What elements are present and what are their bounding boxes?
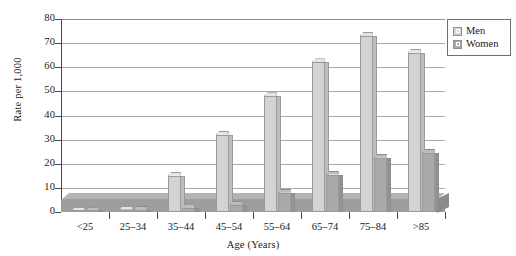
x-category-label-55–64: 55–64 <box>253 221 301 232</box>
y-tick-label: 80 <box>29 13 55 24</box>
x-tick-mark <box>157 212 158 219</box>
bar-women-65–74 <box>326 175 339 212</box>
x-category-label-75–84: 75–84 <box>349 221 397 232</box>
bar-front-face <box>230 205 243 212</box>
bar-women-35–44 <box>182 208 195 212</box>
legend-swatch-men-icon <box>453 27 462 36</box>
y-tick-label: 30 <box>29 134 55 145</box>
y-tick-label: 60 <box>29 61 55 72</box>
bar-front-face <box>168 176 181 212</box>
y-tick-label: 20 <box>29 158 55 169</box>
bar-front-face <box>408 53 421 212</box>
y-tick-label: 0 <box>29 206 55 217</box>
x-tick-mark <box>253 212 254 219</box>
bar-front-face <box>312 62 325 212</box>
bar-front-face <box>216 135 229 212</box>
x-tick-mark <box>109 212 110 219</box>
bar-side-face <box>243 205 247 212</box>
bar-men-65–74 <box>312 62 325 212</box>
bar-side-face <box>387 158 391 212</box>
bar-front-face <box>422 153 435 212</box>
bar-side-face <box>147 210 151 212</box>
x-tick-mark <box>397 212 398 219</box>
bar-front-face <box>326 175 339 212</box>
y-axis-label: Rate per 1,000 <box>12 30 23 150</box>
bar-men-25–34 <box>120 210 133 212</box>
x-category-label->85: >85 <box>397 221 445 232</box>
y-tick-label: 10 <box>29 182 55 193</box>
bar-men-55–64 <box>264 96 277 212</box>
bar-men->85 <box>408 53 421 212</box>
legend-swatch-women-icon <box>453 40 462 49</box>
x-category-label-65–74: 65–74 <box>301 221 349 232</box>
bar-men-45–54 <box>216 135 229 212</box>
bar-side-face <box>229 135 233 212</box>
x-category-label-35–44: 35–44 <box>157 221 205 232</box>
bar-chart: Rate per 1,000 01020304050607080 <2525–3… <box>0 0 516 256</box>
bar-front-face <box>278 193 291 212</box>
y-tick-label: 40 <box>29 110 55 121</box>
x-tick-mark <box>349 212 350 219</box>
bar-front-face <box>86 210 99 212</box>
legend-label-women: Women <box>466 38 498 50</box>
bar-women-55–64 <box>278 193 291 212</box>
bar-side-face <box>291 193 295 212</box>
bar-women-25–34 <box>134 210 147 212</box>
x-category-label-45–54: 45–54 <box>205 221 253 232</box>
legend-item-men[interactable]: Men <box>453 25 506 37</box>
bar-front-face <box>264 96 277 212</box>
bar-front-face <box>374 158 387 212</box>
y-tick-label: 70 <box>29 37 55 48</box>
legend-label-men: Men <box>466 25 485 37</box>
bars-layer <box>61 19 445 199</box>
bar-side-face <box>195 208 199 212</box>
bar-women-<25 <box>86 211 99 212</box>
bar-side-face <box>99 210 103 212</box>
x-category-label-<25: <25 <box>61 221 109 232</box>
bar-women->85 <box>422 153 435 212</box>
y-tick-mark <box>55 212 61 213</box>
legend-item-women[interactable]: Women <box>453 38 506 50</box>
y-tick-label: 50 <box>29 85 55 96</box>
bar-men-35–44 <box>168 176 181 212</box>
bar-side-face <box>339 175 343 212</box>
bar-front-face <box>72 210 85 212</box>
bar-men-<25 <box>72 211 85 212</box>
bar-front-face <box>120 210 133 212</box>
bar-women-75–84 <box>374 158 387 212</box>
x-tick-mark <box>445 212 446 219</box>
bar-women-45–54 <box>230 205 243 212</box>
x-axis-label: Age (Years) <box>61 239 445 250</box>
bar-front-face <box>134 210 147 212</box>
legend: Men Women <box>447 19 511 56</box>
x-tick-mark <box>301 212 302 219</box>
bar-men-75–84 <box>360 36 373 212</box>
x-tick-mark <box>205 212 206 219</box>
bar-front-face <box>360 36 373 212</box>
x-category-label-25–34: 25–34 <box>109 221 157 232</box>
bar-side-face <box>435 153 439 212</box>
bar-front-face <box>182 208 195 212</box>
